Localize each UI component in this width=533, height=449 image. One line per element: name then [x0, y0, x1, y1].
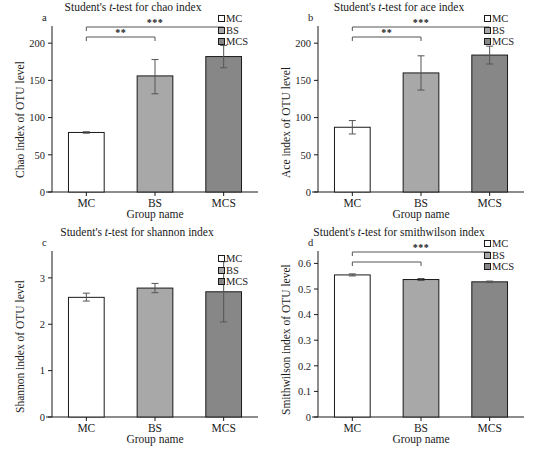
significance-bracket: [352, 262, 421, 266]
legend-label-mcs: MCS: [226, 276, 248, 288]
legend-label-mc: MC: [492, 238, 508, 250]
legend-swatch-mc: [484, 240, 491, 247]
legend-swatch-bs: [484, 252, 491, 259]
legend-label-bs: BS: [492, 25, 505, 37]
y-tick-label: 150: [29, 75, 45, 86]
x-axis-title: Group name: [392, 433, 449, 446]
panel-c-ylabel: Shannon index of OTU level: [14, 280, 26, 413]
y-tick-label: 2: [40, 319, 45, 330]
y-tick-label: 0.6: [298, 258, 311, 269]
legend-swatch-mc: [484, 15, 491, 22]
legend-swatch-bs: [484, 27, 491, 34]
legend-swatch-mcs: [484, 263, 491, 270]
significance-label: **: [381, 27, 392, 38]
legend-label-bs: BS: [492, 250, 505, 262]
legend-label-mc: MC: [226, 253, 242, 265]
x-category-label: MCS: [478, 197, 502, 209]
bar-mc: [334, 275, 370, 417]
panel-a: Student's t-test for chao index a 050100…: [0, 0, 266, 224]
panel-d: Student's t-test for smithwilson index d…: [266, 225, 532, 449]
y-tick-label: 1: [40, 365, 45, 376]
legend-item-mc: MC: [218, 253, 248, 265]
significance-bracket: ***: [352, 17, 489, 32]
significance-bracket: **: [352, 27, 421, 42]
legend-item-mcs: MCS: [218, 276, 248, 288]
legend-swatch-mc: [218, 255, 225, 262]
x-axis-title: Group name: [126, 208, 183, 221]
y-tick-label: 0: [40, 187, 45, 198]
legend-swatch-mcs: [218, 38, 225, 45]
significance-label: ***: [413, 242, 430, 253]
legend-item-bs: BS: [218, 25, 248, 37]
panel-c: Student's t-test for shannon index c 012…: [0, 225, 266, 449]
legend-label-mcs: MCS: [492, 261, 514, 273]
bar-mcs: [472, 55, 508, 192]
bar-mcs: [472, 282, 508, 417]
legend-label-bs: BS: [226, 265, 239, 277]
panel-b: Student's t-test for ace index b 0501001…: [266, 0, 532, 224]
legend-item-bs: BS: [484, 25, 514, 37]
significance-label: ***: [147, 17, 164, 28]
y-tick-label: 0: [306, 412, 311, 423]
x-category-label: MCS: [212, 197, 236, 209]
y-tick-label: 150: [295, 75, 311, 86]
legend-swatch-mc: [218, 15, 225, 22]
significance-bracket: **: [86, 27, 155, 42]
legend-swatch-mcs: [218, 278, 225, 285]
bar-bs: [137, 288, 173, 417]
significance-label: ***: [413, 17, 430, 28]
legend-item-mcs: MCS: [218, 36, 248, 48]
bar-mc: [68, 297, 104, 417]
x-axis-title: Group name: [392, 208, 449, 221]
legend-swatch-bs: [218, 267, 225, 274]
panel-c-legend: MCBSMCS: [218, 253, 248, 288]
bar-mc: [334, 127, 370, 192]
x-axis-title: Group name: [126, 433, 183, 446]
x-category-label: MC: [77, 197, 95, 209]
y-tick-label: 100: [29, 112, 45, 123]
y-tick-label: 0: [306, 187, 311, 198]
panel-d-legend: MCBSMCS: [484, 238, 514, 273]
y-tick-label: 200: [295, 38, 311, 49]
significance-label: **: [115, 27, 126, 38]
legend-item-bs: BS: [218, 265, 248, 277]
significance-bracket: ***: [352, 242, 489, 257]
y-tick-label: 0: [40, 412, 45, 423]
legend-item-bs: BS: [484, 250, 514, 262]
x-category-label: MCS: [212, 422, 236, 434]
legend-swatch-mcs: [484, 38, 491, 45]
y-tick-label: 3: [40, 273, 45, 284]
x-category-label: MCS: [478, 422, 502, 434]
panel-a-legend: MCBSMCS: [218, 13, 248, 48]
figure-four-panel-ttest: Student's t-test for chao index a 050100…: [0, 0, 533, 449]
panel-d-ylabel: Smithwilson index of OTU level: [280, 264, 292, 415]
panel-a-ylabel: Chao index of OTU level: [14, 61, 26, 178]
legend-item-mcs: MCS: [484, 36, 514, 48]
y-tick-label: 0.3: [298, 335, 311, 346]
x-category-label: MC: [77, 422, 95, 434]
x-category-label: MC: [343, 422, 361, 434]
y-tick-label: 50: [301, 150, 312, 161]
legend-item-mcs: MCS: [484, 261, 514, 273]
y-tick-label: 0.2: [298, 361, 311, 372]
y-tick-label: 0.4: [298, 309, 312, 320]
legend-label-bs: BS: [226, 25, 239, 37]
panel-b-ylabel: Ace index of OTU level: [280, 67, 292, 178]
y-tick-label: 200: [29, 38, 45, 49]
legend-label-mcs: MCS: [492, 36, 514, 48]
y-tick-label: 0.5: [298, 284, 311, 295]
bar-mc: [68, 132, 104, 192]
panel-b-legend: MCBSMCS: [484, 13, 514, 48]
legend-label-mcs: MCS: [226, 36, 248, 48]
legend-item-mc: MC: [484, 13, 514, 25]
bar-mcs: [206, 57, 242, 192]
legend-item-mc: MC: [484, 238, 514, 250]
legend-swatch-bs: [218, 27, 225, 34]
y-tick-label: 50: [35, 150, 46, 161]
y-tick-label: 0.1: [298, 386, 311, 397]
x-category-label: MC: [343, 197, 361, 209]
legend-label-mc: MC: [226, 13, 242, 25]
bar-bs: [403, 280, 439, 417]
significance-bracket: ***: [86, 17, 223, 32]
bar-bs: [403, 73, 439, 192]
